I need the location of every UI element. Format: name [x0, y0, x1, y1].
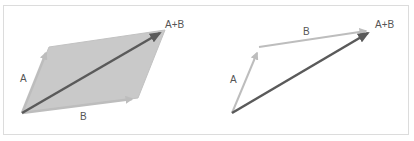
label-b: B	[80, 111, 87, 122]
vector-addition-figure: A B A+B A B A+B	[0, 0, 414, 141]
label-sum: A+B	[165, 19, 185, 30]
label-b: B	[303, 26, 310, 37]
parallelogram-diagram: A B A+B	[20, 19, 185, 122]
label-sum: A+B	[375, 19, 395, 30]
triangle-diagram: A B A+B	[230, 19, 395, 113]
label-a: A	[20, 73, 27, 84]
label-a: A	[230, 74, 237, 85]
vector-sum-arrow	[232, 33, 368, 113]
